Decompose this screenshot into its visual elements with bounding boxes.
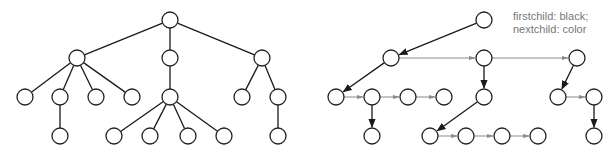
fcns-tree-node-b1d [530, 128, 546, 144]
general-tree-node-c2a [270, 128, 286, 144]
general-tree-edges [31, 23, 278, 131]
fcns-tree-node-b1c [494, 128, 510, 144]
general-tree-node-a1 [17, 89, 33, 105]
fcns-tree-node-a2a [364, 128, 380, 144]
fcns-tree-node-c1 [550, 89, 566, 105]
general-tree-node-c1 [234, 89, 250, 105]
tree-edge [63, 65, 74, 89]
general-tree-node-a2a [52, 128, 68, 144]
fcns-tree-node-c2a [586, 128, 602, 144]
general-tree-node-c [254, 50, 270, 66]
fcns-tree-node-r [476, 12, 492, 28]
fcns-tree-node-a [383, 50, 399, 66]
legend: firstchild: black; nextchild: color [513, 10, 588, 36]
general-tree-node-b1c [180, 128, 196, 144]
fcns-tree-node-a1 [328, 89, 344, 105]
tree-edge [176, 102, 217, 132]
fcns-tree-node-a4 [436, 89, 452, 105]
fcns-tree-node-b1 [476, 89, 492, 105]
fcns-tree-node-b1a [422, 128, 438, 144]
tree-edge [121, 102, 164, 132]
tree-edge [265, 65, 275, 89]
fcns-tree-node-a2 [364, 89, 380, 105]
general-tree-node-a2 [52, 89, 68, 105]
general-tree-node-a [69, 50, 85, 66]
tree-edge [246, 65, 259, 90]
fcns-tree-node-c [569, 50, 585, 66]
fcns-tree-node-b [476, 50, 492, 66]
general-tree-node-b1b [142, 128, 158, 144]
firstchild-arrow [562, 65, 574, 89]
firstchild-nextsibling-edges [343, 23, 594, 136]
legend-firstchild: firstchild: black; [513, 10, 588, 23]
firstchild-arrow [437, 102, 477, 131]
general-tree-node-b1d [216, 128, 232, 144]
tree-edge [177, 23, 254, 55]
general-tree-node-b [162, 50, 178, 66]
fcns-tree-node-a3 [400, 89, 416, 105]
general-tree-node-r [162, 12, 178, 28]
tree-edge [84, 23, 162, 55]
tree-edge [84, 63, 126, 93]
fcns-tree-node-c2 [586, 89, 602, 105]
firstchild-arrow [399, 23, 476, 55]
tree-edge [81, 65, 93, 90]
general-tree-node-b1a [106, 128, 122, 144]
fcns-tree-node-b1b [458, 128, 474, 144]
legend-nextchild: nextchild: color [513, 23, 588, 36]
firstchild-arrow [343, 63, 384, 92]
general-tree-node-b1 [162, 89, 178, 105]
general-tree-node-c2 [270, 89, 286, 105]
tree-edge [173, 104, 184, 128]
general-tree-node-a4 [124, 89, 140, 105]
general-tree-nodes [17, 12, 286, 144]
general-tree-node-a3 [88, 89, 104, 105]
